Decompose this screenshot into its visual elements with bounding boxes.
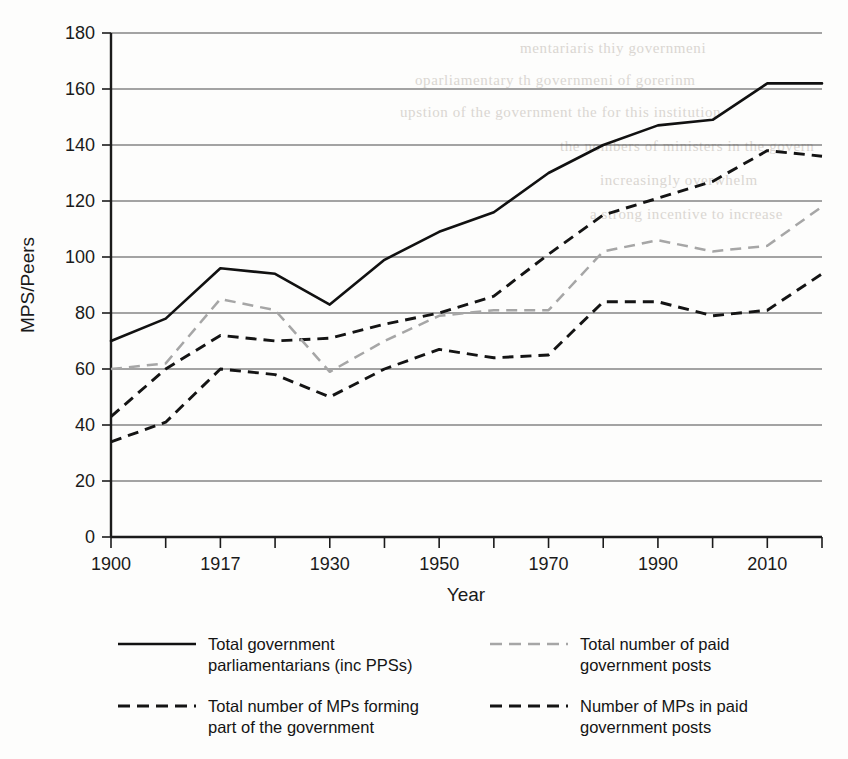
legend-entry-0: Total government parliamentarians (inc P… [118, 634, 413, 676]
x-tick-label: 1917 [200, 554, 240, 574]
x-tick-group: 1900191719301950197019902010 [91, 537, 822, 574]
series-line-1 [111, 151, 822, 417]
legend-label: Number of MPs in paid government posts [580, 696, 748, 738]
x-tick-label: 1950 [419, 554, 459, 574]
y-tick-label: 80 [75, 303, 95, 323]
y-axis-title: MPS/Peers [17, 237, 38, 333]
legend-entry-1: Total number of MPs forming part of the … [118, 696, 419, 738]
y-tick-label: 100 [65, 247, 95, 267]
legend-entry-2: Total number of paid government posts [490, 634, 730, 676]
y-tick-label: 180 [65, 23, 95, 43]
legend-entry-3: Number of MPs in paid government posts [490, 696, 748, 738]
x-tick-label: 2010 [747, 554, 787, 574]
x-axis-title: Year [447, 584, 486, 605]
series-line-2 [111, 207, 822, 372]
legend-swatch-dashed-icon [118, 699, 196, 715]
x-tick-label: 1990 [638, 554, 678, 574]
gridlines-group [111, 33, 822, 481]
legend-label: Total government parliamentarians (inc P… [208, 634, 413, 676]
legend-label: Total number of MPs forming part of the … [208, 696, 419, 738]
x-tick-label: 1930 [310, 554, 350, 574]
chart-page: mentariaris thiy governmeni oparliamenta… [0, 0, 848, 759]
legend-swatch-dashed-icon [490, 699, 568, 715]
y-tick-label: 0 [85, 527, 95, 547]
y-tick-label: 160 [65, 79, 95, 99]
x-tick-label: 1970 [529, 554, 569, 574]
y-tick-label: 20 [75, 471, 95, 491]
legend-swatch-solid-icon [118, 637, 196, 653]
y-tick-group: 020406080100120140160180 [65, 23, 111, 547]
chart-legend: Total government parliamentarians (inc P… [118, 634, 834, 754]
y-tick-label: 60 [75, 359, 95, 379]
x-tick-label: 1900 [91, 554, 131, 574]
legend-label: Total number of paid government posts [580, 634, 730, 676]
y-tick-label: 140 [65, 135, 95, 155]
series-group [111, 83, 822, 441]
legend-swatch-dashed-light-icon [490, 637, 568, 653]
y-tick-label: 120 [65, 191, 95, 211]
y-tick-label: 40 [75, 415, 95, 435]
series-line-3 [111, 274, 822, 442]
